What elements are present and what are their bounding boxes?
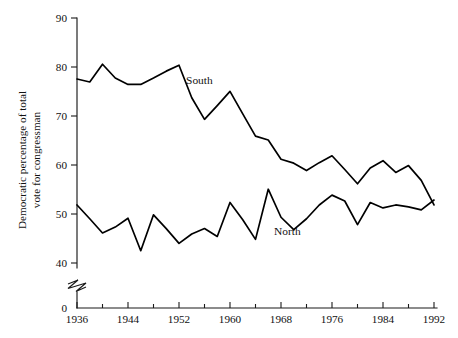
x-tick-label-1960: 1960 [219,313,242,325]
x-tick-label-1952: 1952 [168,313,190,325]
x-tick-label-1944: 1944 [117,313,140,325]
x-tick-label-1976: 1976 [321,313,344,325]
x-axis-ticks [77,302,434,308]
y-tick-label-90: 90 [56,12,68,24]
x-tick-label-1984: 1984 [372,313,395,325]
x-tick-label-1936: 1936 [66,313,89,325]
y-tick-label-80: 80 [56,61,68,73]
chart-figure: Democratic percentage of total vote for … [0,0,458,338]
y-axis-label: Democratic percentage of total vote for … [16,91,42,229]
y-axis-break-icon [68,280,86,292]
series-line-south [77,64,434,205]
y-tick-label-40: 40 [56,257,68,269]
series-labels: South North [186,74,301,238]
x-tick-label-1992: 1992 [423,313,445,325]
y-tick-label-70: 70 [56,110,68,122]
y-axis-label-line-1: Democratic percentage of total [16,91,28,229]
y-axis-label-line-2: vote for congressman [30,111,42,208]
series-line-north [77,189,434,251]
x-axis-tick-labels: 1936 1944 1952 1960 1968 1976 1984 1992 [66,313,445,325]
y-tick-label-60: 60 [56,159,68,171]
axes [68,18,437,308]
y-axis-tick-labels: 90 80 70 60 50 40 0 [56,12,68,314]
data-series-group [77,64,434,250]
y-axis-ticks [71,18,77,263]
series-label-south: South [186,74,213,86]
series-label-north: North [274,225,301,237]
x-tick-label-1968: 1968 [270,313,293,325]
y-tick-label-50: 50 [56,208,68,220]
congressional-vote-line-chart: Democratic percentage of total vote for … [0,0,458,338]
